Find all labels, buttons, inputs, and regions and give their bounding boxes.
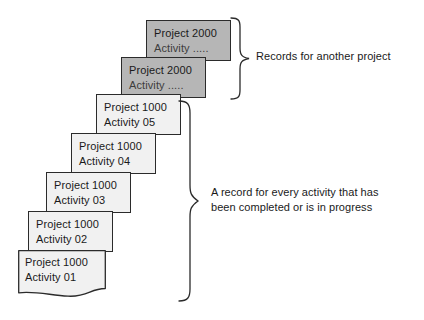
record-card-project-2000-top: Project 2000 Activity ..... — [146, 20, 231, 61]
record-card-line1: Project 1000 — [104, 100, 180, 115]
diagram-canvas: Project 2000 Activity ..... Project 2000… — [0, 0, 424, 320]
record-card-line1: Project 2000 — [129, 63, 205, 78]
record-card-project-2000-second: Project 2000 Activity ..... — [121, 57, 206, 98]
record-card-project-1000-activity-04: Project 1000 Activity 04 — [71, 133, 156, 174]
record-card-project-1000-activity-03: Project 1000 Activity 03 — [46, 172, 131, 213]
record-card-line1: Project 1000 — [36, 217, 112, 232]
record-card-project-1000-activity-01: Project 1000 Activity 01 — [18, 250, 106, 298]
record-card-line1: Project 1000 — [79, 139, 155, 154]
brace-upper — [228, 14, 254, 106]
record-card-line1: Project 1000 — [25, 255, 106, 270]
record-card-line2: Activity 03 — [54, 193, 130, 208]
record-card-line2: Activity ..... — [154, 41, 230, 56]
record-card-line2: Activity 01 — [25, 270, 106, 285]
record-card-line1: Project 2000 — [154, 26, 230, 41]
record-card-line2: Activity ..... — [129, 78, 205, 93]
record-card-line2: Activity 02 — [36, 232, 112, 247]
annotation-record-for-every-activity: A record for every activity that has bee… — [211, 185, 378, 215]
record-card-project-1000-activity-05: Project 1000 Activity 05 — [96, 94, 181, 135]
record-card-line2: Activity 05 — [104, 115, 180, 130]
record-card-line1: Project 1000 — [54, 178, 130, 193]
record-card-text: Project 1000 Activity 01 — [18, 250, 106, 284]
brace-lower — [176, 97, 202, 309]
record-card-project-1000-activity-02: Project 1000 Activity 02 — [28, 211, 113, 252]
record-card-line2: Activity 04 — [79, 154, 155, 169]
annotation-records-for-another-project: Records for another project — [256, 49, 391, 64]
